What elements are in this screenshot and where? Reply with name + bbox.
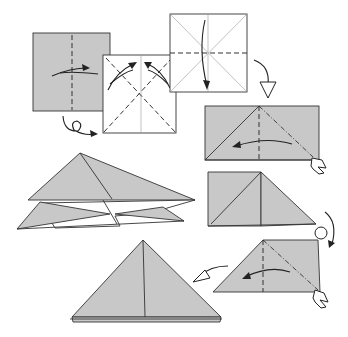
step-3-white-square [170,14,247,92]
step-5-intermediate [208,172,316,226]
origami-diagram [0,0,348,337]
turn-over-icon [63,116,98,137]
step-2-white-square [103,55,176,133]
step-8-3d-view [17,153,195,229]
step-1-colored-square [33,33,110,111]
step-4-rectangle [205,106,326,174]
result-arrow [193,266,228,282]
next-step-arrow [254,60,276,98]
step-6-squash [213,240,328,308]
